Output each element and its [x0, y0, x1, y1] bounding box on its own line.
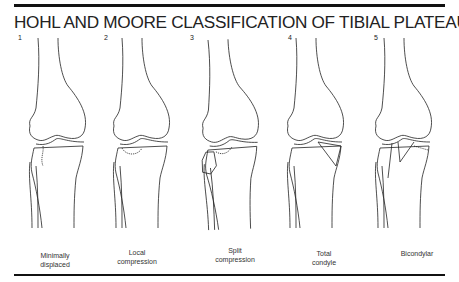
caption-type-5: Bicondylar [382, 249, 452, 258]
type-number-5: 5 [374, 34, 378, 41]
knee-illustrations [0, 0, 459, 282]
type-number-3: 3 [190, 34, 194, 41]
bottom-rule [14, 274, 445, 276]
figure: HOHL AND MOORE CLASSIFICATION OF TIBIAL … [0, 0, 459, 282]
knee-type-4 [287, 38, 343, 228]
type-number-4: 4 [288, 34, 292, 41]
knee-type-1 [29, 38, 85, 228]
caption-type-4: Totalcondyle [289, 249, 359, 267]
caption-type-2: Localcompression [102, 248, 172, 266]
knee-type-5 [375, 38, 431, 228]
knee-type-2 [113, 38, 169, 228]
type-number-2: 2 [104, 34, 108, 41]
knee-type-3 [198, 38, 262, 230]
caption-type-1: Minimallydisplaced [20, 251, 90, 269]
caption-type-3: Splitcompression [200, 246, 270, 264]
type-number-1: 1 [18, 34, 22, 41]
